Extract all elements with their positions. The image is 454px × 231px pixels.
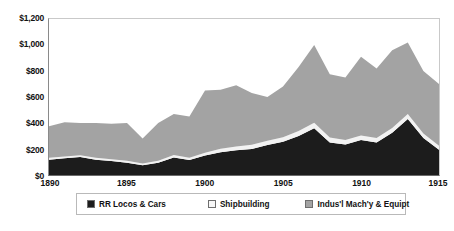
x-axis: 189018951900190519101915 xyxy=(0,178,454,192)
y-axis-tick-label: $600 xyxy=(26,92,44,102)
y-axis-tick-label: $400 xyxy=(26,118,44,128)
plot-area xyxy=(48,18,440,176)
y-axis-tick-label: $800 xyxy=(26,66,44,76)
x-axis-tick-label: 1900 xyxy=(195,178,214,188)
legend-swatch-icon xyxy=(208,200,216,208)
chart-legend: RR Locos & CarsShipbuildingIndus'l Mach'… xyxy=(76,193,406,215)
x-axis-tick-label: 1910 xyxy=(352,178,371,188)
stacked-area-svg xyxy=(49,19,439,175)
y-axis-tick-label: $1,200 xyxy=(19,13,44,23)
y-axis: $0$200$400$600$800$1,000$1,200 xyxy=(0,0,44,231)
legend-item: Indus'l Mach'y & Equipt xyxy=(305,200,409,209)
x-axis-tick-label: 1905 xyxy=(274,178,293,188)
legend-label: RR Locos & Cars xyxy=(99,200,166,209)
legend-label: Shipbuilding xyxy=(220,200,270,209)
x-axis-tick-label: 1895 xyxy=(117,178,136,188)
y-axis-tick-label: $200 xyxy=(26,145,44,155)
legend-label: Indus'l Mach'y & Equipt xyxy=(317,200,409,209)
legend-swatch-icon xyxy=(87,200,95,208)
chart-figure: $0$200$400$600$800$1,000$1,200 189018951… xyxy=(0,0,454,231)
legend-item: RR Locos & Cars xyxy=(87,200,166,209)
legend-item: Shipbuilding xyxy=(208,200,270,209)
y-axis-tick-label: $1,000 xyxy=(19,39,44,49)
x-axis-tick-label: 1890 xyxy=(41,178,60,188)
legend-swatch-icon xyxy=(305,200,313,208)
x-axis-tick-label: 1915 xyxy=(429,178,448,188)
